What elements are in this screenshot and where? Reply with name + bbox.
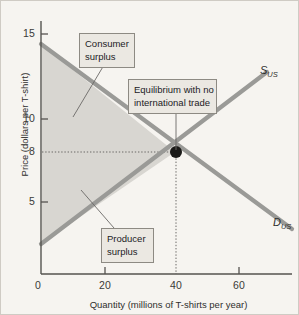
- y-tick-label-8: 8: [29, 145, 35, 157]
- producer-surplus-callout-line1: Producer: [107, 232, 148, 245]
- equilibrium-callout: Equilibrium with no international trade: [128, 79, 217, 114]
- x-tick-label-20: 20: [99, 279, 111, 291]
- consumer-surplus-callout-line2: surplus: [85, 50, 129, 63]
- chart-plot-area: [1, 1, 299, 315]
- demand-curve-label-sub: US: [281, 222, 291, 231]
- consumer-surplus-callout-line1: Consumer: [85, 37, 129, 50]
- equilibrium-callout-line1: Equilibrium with no: [134, 83, 211, 96]
- chart-figure: Price (dollars per T-shirt) Quantity (mi…: [0, 0, 299, 315]
- y-axis-title: Price (dollars per T-shirt): [19, 55, 30, 195]
- origin-label: 0: [35, 279, 41, 291]
- equilibrium-callout-line2: international trade: [134, 96, 211, 109]
- x-axis-title: Quantity (millions of T-shirts per year): [41, 299, 296, 310]
- demand-curve-label-main: D: [273, 216, 281, 228]
- x-tick-label-40: 40: [170, 279, 182, 291]
- y-tick-label-10: 10: [23, 112, 35, 124]
- x-tick-label-60: 60: [233, 279, 245, 291]
- supply-curve-label: SUS: [260, 64, 278, 79]
- demand-curve-label: DUS: [273, 216, 291, 231]
- y-tick-label-5: 5: [29, 195, 35, 207]
- producer-surplus-callout-line2: surplus: [107, 245, 148, 258]
- supply-curve-label-sub: US: [267, 70, 277, 79]
- y-tick-label-15: 15: [23, 27, 35, 39]
- consumer-surplus-callout: Consumer surplus: [79, 33, 135, 68]
- producer-surplus-callout: Producer surplus: [101, 228, 154, 263]
